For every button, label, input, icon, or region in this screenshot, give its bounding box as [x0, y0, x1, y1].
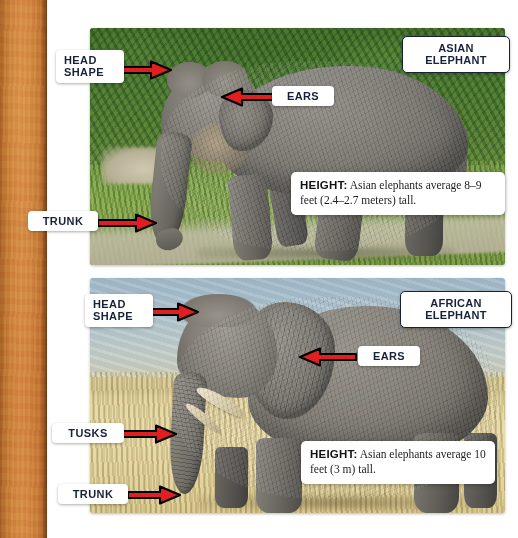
african-elephant-front-left-leg — [256, 438, 302, 513]
arrow-asian-trunk-icon — [96, 213, 158, 233]
asian-height-fact-box: HEIGHT: Asian elephants average 8–9 feet… — [291, 172, 505, 215]
african-height-key: HEIGHT — [310, 448, 353, 460]
callout-african-ears[interactable]: EARS — [358, 346, 420, 366]
african-elephant-front-right-leg — [215, 447, 248, 508]
arrow-asian-ears-icon — [222, 87, 274, 107]
callout-african-trunk[interactable]: TRUNK — [58, 484, 128, 504]
arrow-african-ears-icon — [300, 347, 358, 367]
binding-texture — [0, 0, 47, 538]
arrow-african-tusks-icon — [120, 424, 178, 444]
asian-elephant-front-left-leg — [227, 173, 274, 261]
callout-asian-trunk[interactable]: TRUNK — [28, 211, 98, 231]
callout-asian-ears[interactable]: EARS — [272, 86, 334, 106]
callout-african-tusks[interactable]: TUSKS — [52, 423, 124, 443]
african-elephant-species-badge: AFRICAN ELEPHANT — [400, 291, 512, 328]
asian-height-separator: : — [343, 179, 347, 191]
arrow-african-trunk-icon — [126, 485, 182, 505]
callout-asian-head-shape[interactable]: HEAD SHAPE — [56, 50, 124, 83]
asian-height-key: HEIGHT — [300, 179, 343, 191]
callout-african-head-shape[interactable]: HEAD SHAPE — [85, 294, 153, 327]
asian-elephant-species-badge: ASIAN ELEPHANT — [402, 36, 510, 73]
african-height-fact-box: HEIGHT: Asian elephants average 10 feet … — [301, 441, 495, 484]
book-binding-strip — [0, 0, 47, 538]
elephant-comparison-page: ASIAN ELEPHANT HEAD SHAPE EARS TRUNK HEI… — [0, 0, 518, 538]
african-height-separator: : — [353, 448, 357, 460]
